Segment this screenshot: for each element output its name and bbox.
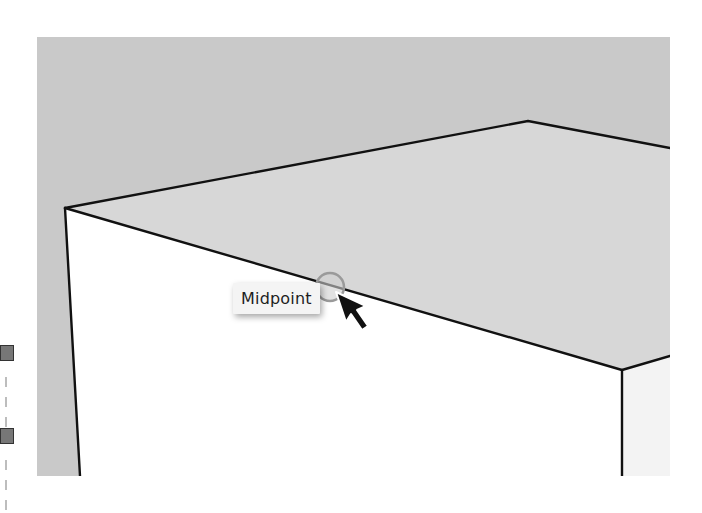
dashed-line [5,500,7,510]
section-marker-icon[interactable] [0,345,14,361]
side-face[interactable] [622,356,670,476]
dashed-line [5,417,7,427]
dashed-line [5,377,7,387]
section-marker-icon[interactable] [0,428,14,444]
dashed-line [5,480,7,490]
inference-tooltip: Midpoint [233,283,320,314]
dashed-line [5,460,7,470]
dashed-line [5,397,7,407]
box-model[interactable] [37,37,670,476]
modeling-viewport[interactable]: Midpoint [37,37,670,476]
